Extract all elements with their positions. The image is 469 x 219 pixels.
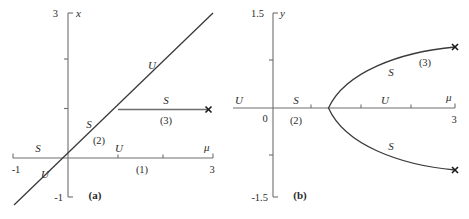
panel-a-label-u-upper: U	[148, 59, 157, 71]
panel-a-label-u-axis: U	[115, 142, 124, 154]
panel-b-label-u-mid: U	[381, 94, 390, 106]
panel-a-x-min-label: -1	[12, 164, 21, 175]
panel-b-x-axis-variable: μ	[445, 91, 452, 103]
figure-canvas: 3 x -1 -1 3 μ U S (3) S (2) S U (1) U (a…	[0, 0, 469, 219]
panel-a-y-axis-variable: x	[75, 7, 81, 19]
panel-a-caption: (a)	[89, 189, 102, 202]
panel-a-y-max-label: 3	[53, 8, 58, 19]
panel-a-label-branch-2: (2)	[93, 135, 106, 147]
panel-b-y-max-label: 1.5	[251, 8, 264, 19]
panel-b-y-axis-variable: y	[279, 7, 285, 19]
panel-b: 1.5 y -1.5 0 3 μ U S (2) U S (3) S (b)	[233, 7, 458, 203]
panel-a-x-max-label: 3	[209, 164, 214, 175]
panel-a-label-u-lower: U	[41, 168, 50, 180]
panel-a-label-branch-1: (1)	[136, 164, 149, 176]
panel-b-label-s-upper: S	[388, 66, 394, 78]
panel-a-y-min-label: -1	[54, 192, 63, 203]
panel-a: 3 x -1 -1 3 μ U S (3) S (2) S U (1) U (a…	[12, 7, 215, 205]
panel-b-label-branch-3: (3)	[419, 57, 432, 69]
panel-b-origin-label: 0	[262, 113, 267, 124]
panel-a-x-axis-variable: μ	[203, 141, 210, 153]
panel-b-label-u-left: U	[235, 94, 244, 106]
panel-b-label-s-lower: S	[388, 140, 394, 152]
panel-b-x-max-label: 3	[451, 114, 456, 125]
bifurcation-diagram-figure: 3 x -1 -1 3 μ U S (3) S (2) S U (1) U (a…	[0, 0, 469, 219]
panel-b-label-branch-2: (2)	[290, 115, 303, 127]
panel-a-label-s-branch3: S	[163, 94, 169, 106]
panel-a-label-branch-3: (3)	[160, 115, 173, 127]
panel-a-label-s-left: S	[35, 142, 41, 154]
panel-b-label-s-left: S	[293, 94, 299, 106]
panel-b-y-min-label: -1.5	[251, 192, 268, 203]
panel-b-caption: (b)	[293, 189, 307, 202]
panel-a-label-s-diagonal: S	[86, 118, 92, 130]
